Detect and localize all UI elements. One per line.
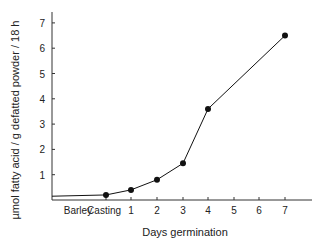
x-tick-label: Casting: [87, 205, 121, 216]
x-tick-label: 2: [154, 205, 160, 216]
ticks: 1234567BarleyCasting1234567: [39, 18, 288, 216]
series-line: [52, 36, 285, 197]
data-point: [154, 177, 160, 183]
y-tick-label: 7: [39, 18, 45, 29]
data-point: [282, 33, 288, 39]
data-point: [205, 106, 211, 112]
y-tick-label: 5: [39, 69, 45, 80]
x-axis-title: Days germination: [142, 226, 228, 238]
y-tick-label: 4: [39, 94, 45, 105]
x-tick-label: 6: [256, 205, 262, 216]
series: [52, 33, 288, 198]
data-point: [128, 187, 134, 193]
y-tick-label: 3: [39, 119, 45, 130]
x-tick-label: 4: [205, 205, 211, 216]
x-tick-label: 3: [180, 205, 186, 216]
y-axis-title: µmol fatty acid / g defatted powder / 18…: [9, 21, 21, 220]
axes: [52, 12, 312, 200]
data-point: [180, 160, 186, 166]
y-tick-label: 6: [39, 43, 45, 54]
y-tick-label: 2: [39, 144, 45, 155]
x-tick-label: 1: [128, 205, 134, 216]
data-point: [103, 192, 109, 198]
x-tick-label: 7: [282, 205, 288, 216]
x-tick-label: 5: [231, 205, 237, 216]
line-chart: 1234567BarleyCasting1234567 Days germina…: [0, 0, 321, 243]
y-tick-label: 1: [39, 170, 45, 181]
